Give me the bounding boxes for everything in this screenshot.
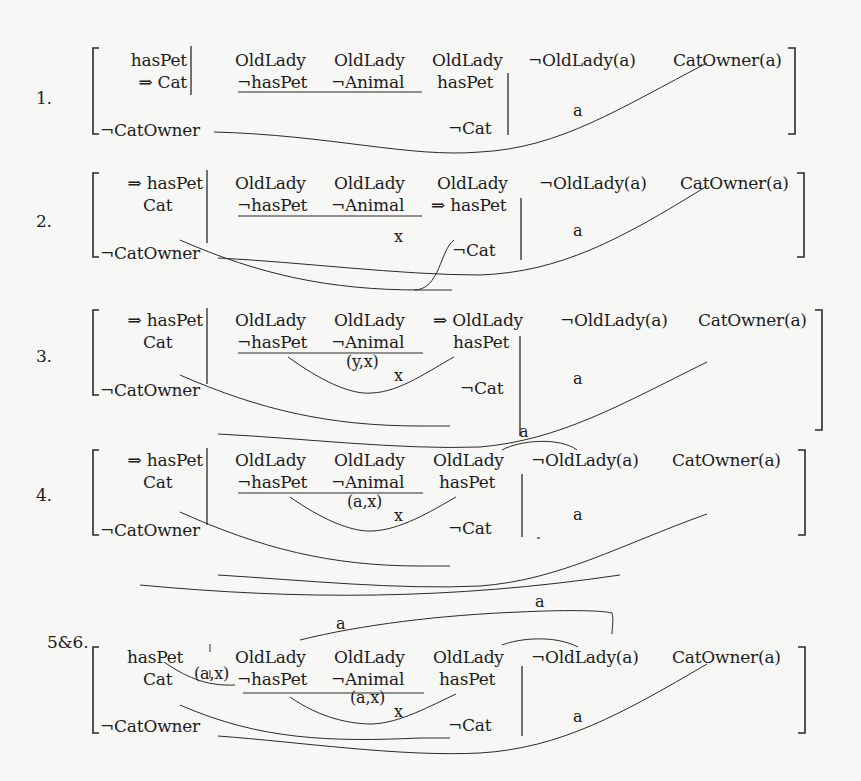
col1-bottom: ¬hasPet	[237, 332, 307, 352]
col3-middle: hasPet	[439, 472, 495, 492]
left-term-2: Cat	[143, 332, 172, 352]
right-term-1: ¬OldLady(a)	[531, 450, 639, 470]
col1-bottom: ¬hasPet	[237, 195, 307, 215]
col3-bottom: ¬Cat	[448, 518, 491, 538]
left-term-1: hasPet	[110, 50, 187, 70]
col2-top: OldLady	[334, 310, 405, 330]
col3-bottom: ¬Cat	[460, 378, 503, 398]
right-term-1: ¬OldLady(a)	[539, 173, 647, 193]
right-term-2: CatOwner(a)	[672, 647, 781, 667]
arc-label: (a,x)	[194, 664, 229, 684]
col3-top: OldLady	[433, 450, 504, 470]
col3-middle: hasPet	[453, 332, 509, 352]
connection-arc	[180, 705, 450, 739]
right-term-1: ¬OldLady(a)	[560, 310, 668, 330]
connection-arc	[180, 512, 450, 566]
right-bracket	[797, 173, 804, 257]
col2-bottom: ¬Animal	[331, 669, 404, 689]
col2-top: OldLady	[334, 450, 405, 470]
arc-label: x	[394, 227, 403, 247]
col3-middle: ⇒ hasPet	[431, 195, 506, 215]
col1-bottom: ¬hasPet	[237, 472, 307, 492]
left-term-3: ¬CatOwner	[100, 380, 200, 400]
col2-bottom: ¬Animal	[331, 332, 404, 352]
left-term-3: ¬CatOwner	[100, 520, 200, 540]
col1-bottom: ¬hasPet	[237, 72, 307, 92]
connection-arc	[502, 639, 578, 647]
left-bracket	[93, 310, 99, 395]
right-term-2: CatOwner(a)	[680, 173, 789, 193]
right-term-2: CatOwner(a)	[698, 310, 807, 330]
arc-label: x	[394, 506, 403, 526]
connection-arc	[218, 362, 707, 447]
col3-bottom: ¬Cat	[448, 715, 491, 735]
step-label: 5&6.	[47, 632, 88, 652]
left-bracket	[93, 48, 99, 134]
left-term-1: ⇒ hasPet	[100, 450, 203, 470]
arc-label: a	[573, 221, 582, 241]
col2-bottom: ¬Animal	[331, 472, 404, 492]
col2-top: OldLady	[334, 173, 405, 193]
col3-top: OldLady	[433, 647, 504, 667]
col2-bottom: ¬Animal	[331, 195, 404, 215]
col3-middle: hasPet	[437, 72, 493, 92]
arc-label: a	[519, 422, 528, 442]
arc-label: a	[573, 369, 582, 389]
left-term-2: Cat	[143, 472, 172, 492]
col3-top: ⇒ OldLady	[433, 310, 523, 330]
connection-arc	[180, 375, 450, 426]
col2-top: OldLady	[334, 50, 405, 70]
left-term-3: ¬CatOwner	[100, 120, 200, 140]
left-term-1: ⇒ hasPet	[100, 173, 203, 193]
col3-bottom: ¬Cat	[452, 240, 495, 260]
col1-bottom: ¬hasPet	[237, 669, 307, 689]
step-label: 3.	[36, 346, 52, 366]
diagram-canvas: 1. hasPet ⇒ Cat ¬CatOwner OldLady ¬hasPe…	[0, 0, 861, 781]
col3-bottom: ¬Cat	[448, 118, 491, 138]
right-bracket	[815, 310, 822, 430]
arc-label: x	[394, 366, 403, 386]
connection-arc	[414, 240, 454, 290]
left-term-1: ⇒ hasPet	[100, 310, 203, 330]
left-term-2: Cat	[143, 669, 172, 689]
left-term-3: ¬CatOwner	[100, 243, 200, 263]
col3-top: OldLady	[437, 173, 508, 193]
col3-top: OldLady	[432, 50, 503, 70]
right-term-2: CatOwner(a)	[672, 450, 781, 470]
left-term-2: ⇒ Cat	[110, 72, 187, 92]
col3-middle: hasPet	[439, 669, 495, 689]
left-bracket	[93, 173, 99, 257]
col1-top: OldLady	[235, 173, 306, 193]
arc-label: a	[535, 592, 544, 612]
col1-top: OldLady	[235, 50, 306, 70]
col1-top: OldLady	[235, 450, 306, 470]
connection-arc	[140, 575, 620, 595]
connection-arc	[502, 441, 577, 450]
arc-label: (a,x)	[350, 688, 385, 708]
arc-label: a	[336, 614, 345, 634]
left-term-3: ¬CatOwner	[100, 716, 200, 736]
right-bracket	[788, 48, 795, 134]
right-bracket	[798, 450, 805, 535]
right-bracket	[798, 647, 805, 733]
arc-label: (y,x)	[346, 352, 379, 372]
col1-top: OldLady	[235, 310, 306, 330]
col2-bottom: ¬Animal	[331, 72, 404, 92]
step-label: 2.	[36, 211, 52, 231]
col2-top: OldLady	[334, 647, 405, 667]
arc-label: (a,x)	[347, 492, 382, 512]
right-term-2: CatOwner(a)	[673, 50, 782, 70]
step-label: 1.	[36, 88, 52, 108]
left-bracket	[93, 647, 99, 733]
arc-label: a	[573, 707, 582, 727]
left-term-1: hasPet	[127, 647, 183, 667]
connection-arc	[180, 240, 452, 290]
right-term-1: ¬OldLady(a)	[531, 647, 639, 667]
connection-arc	[300, 611, 613, 640]
right-term-1: ¬OldLady(a)	[528, 50, 636, 70]
left-term-2: Cat	[143, 195, 172, 215]
arc-label: x	[394, 702, 403, 722]
arc-label: a	[573, 505, 582, 525]
step-label: 4.	[36, 485, 52, 505]
arc-label: a	[573, 101, 582, 121]
